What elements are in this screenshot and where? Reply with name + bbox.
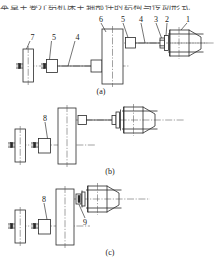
component-3-bearing-a [160,38,165,48]
caption-a: (a) [97,87,106,96]
callout-8-b: 8 [43,114,47,123]
caption-b: (b) [105,167,115,176]
diagram-c: 8 9 (c) [8,183,150,257]
callout-4-left-a: 4 [76,33,80,42]
shaft-collar-a [91,60,102,72]
callout-5-left-a: 5 [52,33,56,42]
shaft-collar-b [78,116,87,125]
component-7-block-a [23,49,34,82]
component-8-block-c [39,220,51,235]
leader-4-right-a [141,23,145,43]
schematic-drawing: 7 5 4 6 5 4 3 2 1 (a) [0,0,217,263]
component-5-right-block-a [126,38,136,49]
callout-5-right-a: 5 [121,15,125,24]
bearing-assembly-b [112,110,121,130]
motor-block-c [15,210,26,243]
callout-2-a: 2 [165,15,169,24]
leader-2-a [166,23,167,36]
callout-6-a: 6 [99,15,103,24]
callout-1-a: 1 [186,15,190,24]
callout-7-a: 7 [31,33,35,42]
leader-4-left-a [68,41,75,66]
leader-1-a [181,23,187,30]
component-1-spindle-cone-a [166,27,208,59]
component-8-block-b [39,139,51,154]
diagram-b: 8 (b) [8,104,185,176]
caption-c: (c) [106,248,115,257]
diagram-a: 7 5 4 6 5 4 3 2 1 (a) [16,15,215,96]
leader-3-a [156,23,162,38]
motor-block-b [15,129,26,162]
leader-8-b [45,122,48,139]
callout-4-right-a: 4 [139,15,143,24]
component-9-bearing-c [76,191,85,207]
leader-8-c [44,203,47,220]
leader-5-right-a [123,23,128,38]
figure-root: 本章主要介绍机床主轴部件的结构与传动形式 [0,0,217,263]
component-5-left-block-a [47,60,58,73]
callout-9-c: 9 [83,218,87,227]
leader-5-left-a [50,41,52,60]
callout-8-c: 8 [42,195,46,204]
callout-3-a: 3 [154,15,158,24]
